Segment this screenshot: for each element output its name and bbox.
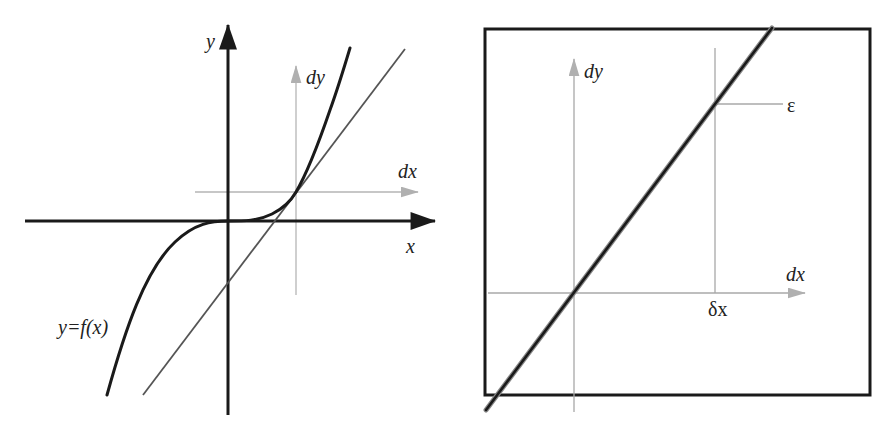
dy-label-right: dy bbox=[584, 60, 603, 83]
epsilon-label: ε bbox=[787, 94, 795, 116]
dx-label-right: dx bbox=[786, 263, 805, 285]
left-panel: y x dy dx y=f(x) bbox=[25, 25, 435, 415]
dy-label-left: dy bbox=[306, 66, 325, 89]
zoom-frame bbox=[485, 29, 870, 395]
diagram-canvas: y x dy dx y=f(x) dy dx δx ε bbox=[0, 0, 888, 433]
curve-label: y=f(x) bbox=[56, 316, 108, 339]
dx-label-left: dx bbox=[398, 160, 417, 182]
x-axis-label: x bbox=[405, 235, 415, 257]
delta-x-label: δx bbox=[708, 298, 727, 320]
right-panel: dy dx δx ε bbox=[485, 28, 870, 412]
y-axis-label: y bbox=[204, 30, 215, 53]
zoomed-curve bbox=[486, 28, 772, 410]
